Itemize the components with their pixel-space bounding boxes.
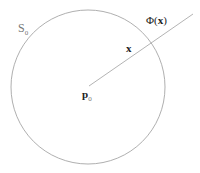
phi-suffix: ) [163,14,167,26]
phi-prefix: Φ( [146,14,158,26]
center-subscript: 0 [88,95,92,103]
projection-ray [89,14,193,86]
sphere-circle [11,10,165,164]
point-x-label: x [126,43,132,54]
sphere-label: S0 [18,22,28,37]
diagram-canvas [0,0,200,173]
sphere-symbol: S [18,21,25,35]
sphere-subscript: 0 [25,29,29,37]
center-label: p0 [82,89,92,103]
phi-label: Φ(x) [146,15,167,26]
